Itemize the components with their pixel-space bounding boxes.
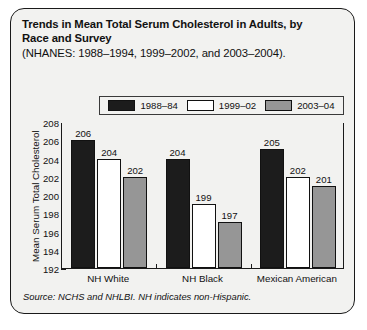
legend-swatch-icon (108, 100, 135, 111)
y-axis-tick-label: 192 (39, 264, 59, 275)
bar (260, 149, 284, 268)
x-axis-group-separator (251, 264, 252, 268)
y-axis-tick-label: 198 (39, 209, 59, 220)
y-axis-tick-mark (61, 269, 66, 270)
bar (97, 159, 121, 269)
bar-value-label: 197 (214, 210, 246, 221)
y-axis-tick-label: 196 (39, 227, 59, 238)
x-axis-group-label: NH Black (155, 273, 249, 284)
figure-card: Trends in Mean Total Serum Cholesterol i… (10, 8, 355, 314)
legend-entry: 1988–84 (108, 100, 177, 111)
bar (123, 177, 147, 268)
bar-value-label: 204 (93, 147, 125, 158)
y-axis-tick-label: 200 (39, 191, 59, 202)
y-axis-tick-label: 194 (39, 245, 59, 256)
legend-entry: 2003–04 (265, 100, 334, 111)
bar (312, 186, 336, 268)
bar (166, 159, 190, 269)
chart-plot-area: 206204202204199197205202201 (61, 123, 344, 269)
bar-value-label: 202 (119, 165, 151, 176)
y-axis-tick-labels: 208206204202200198196194192 (37, 123, 59, 269)
y-axis-tick-label: 208 (39, 118, 59, 129)
bar (286, 177, 310, 268)
legend-swatch-icon (265, 100, 292, 111)
bar (71, 140, 95, 268)
bar (218, 222, 242, 268)
legend-label: 1999–02 (219, 100, 256, 111)
y-axis-tick-label: 206 (39, 136, 59, 147)
chart-legend: 1988–841999–022003–04 (99, 96, 344, 115)
figure-title-block: Trends in Mean Total Serum Cholesterol i… (22, 17, 344, 61)
x-axis-group-separator (156, 264, 157, 268)
x-axis-group-label: NH White (61, 273, 155, 284)
bar-value-label: 199 (188, 192, 220, 203)
bar-value-label: 201 (308, 174, 340, 185)
legend-swatch-icon (187, 100, 214, 111)
page-subtitle: (NHANES: 1988–1994, 1999–2002, and 2003–… (22, 45, 344, 61)
page-title-line-2: Race and Survey (22, 31, 344, 45)
bar-value-label: 204 (162, 147, 194, 158)
y-axis-tick-label: 202 (39, 172, 59, 183)
bar-value-label: 205 (256, 137, 288, 148)
source-note: Source: NCHS and NHLBI. NH indicates non… (23, 291, 251, 302)
bar (192, 204, 216, 268)
legend-label: 1988–84 (140, 100, 177, 111)
legend-label: 2003–04 (297, 100, 334, 111)
bar-value-label: 206 (67, 128, 99, 139)
x-axis-group-label: Mexican American (250, 273, 344, 284)
y-axis-tick-label: 204 (39, 154, 59, 165)
legend-entry: 1999–02 (187, 100, 256, 111)
page-title-line-1: Trends in Mean Total Serum Cholesterol i… (22, 17, 344, 31)
